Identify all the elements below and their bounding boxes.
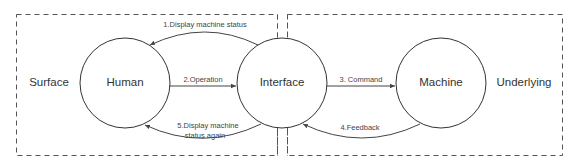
node-human: Human — [80, 38, 170, 128]
edge-label-operation: 2.Operation — [183, 75, 222, 84]
surface-region-label: Surface — [29, 76, 69, 88]
edge-label-command: 3. Command — [340, 75, 383, 84]
node-machine: Machine — [396, 38, 486, 128]
hmi-diagram: Surface Underlying 1.Display machine sta… — [0, 0, 578, 164]
underlying-region-label: Underlying — [497, 76, 552, 88]
node-interface: Interface — [237, 38, 327, 128]
interface-label: Interface — [260, 76, 305, 88]
machine-label: Machine — [419, 76, 462, 88]
edge-label-display-status: 1.Display machine status — [163, 20, 247, 29]
edge-display-status — [150, 32, 258, 45]
edge-label-display-status-again-line2: status again — [185, 131, 225, 140]
edge-label-display-status-again-line1: 5.Display machine — [177, 121, 238, 130]
human-label: Human — [106, 76, 143, 88]
edge-label-feedback: 4.Feedback — [340, 123, 379, 132]
